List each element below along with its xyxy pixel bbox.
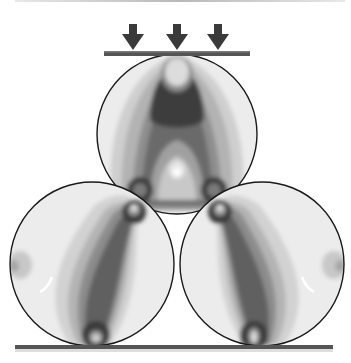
load-arrows: [122, 24, 229, 50]
arrow-down-icon: [122, 24, 144, 50]
stress-diagram: [0, 0, 351, 363]
arrow-down-icon: [166, 24, 188, 50]
arrow-down-icon: [207, 24, 229, 50]
bottom-plate: [15, 345, 333, 349]
